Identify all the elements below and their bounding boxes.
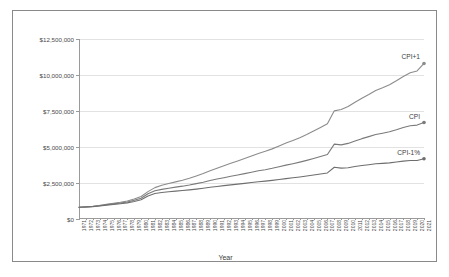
x-axis-tick-mark: [410, 218, 411, 220]
x-axis-tick-mark: [293, 218, 294, 220]
x-axis-tick-label: 2006: [323, 220, 329, 231]
x-axis-tick-mark: [141, 218, 142, 220]
x-axis-tick-mark: [362, 218, 363, 220]
x-axis-tick-label: 2007: [329, 220, 335, 231]
x-axis-tick-label: 1981: [150, 220, 156, 231]
x-axis-tick-label: 2016: [392, 220, 398, 231]
x-axis-tick-label: 1996: [254, 220, 260, 231]
x-axis-tick-label: 1972: [88, 220, 94, 231]
x-axis-tick-label: 2011: [357, 220, 363, 231]
x-axis-tick-mark: [189, 218, 190, 220]
y-axis-tick-label: $5,000,000: [43, 144, 74, 151]
x-axis-tick-mark: [390, 218, 391, 220]
x-axis-tick-mark: [148, 218, 149, 220]
x-axis-tick-label: 1997: [260, 220, 266, 231]
x-axis-tick-mark: [120, 218, 121, 220]
x-axis-tick-mark: [348, 218, 349, 220]
x-axis-tick-label: 2014: [378, 220, 384, 231]
x-axis-tick-mark: [134, 218, 135, 220]
chart-frame: $0$2,500,000$5,000,000$7,500,000$10,000,…: [12, 10, 437, 262]
x-axis-tick-label: 1998: [267, 220, 273, 231]
x-axis-tick-label: 2019: [412, 220, 418, 231]
x-axis-tick-label: 2003: [302, 220, 308, 231]
x-axis-tick-label: 2021: [426, 220, 432, 231]
x-axis-tick-mark: [210, 218, 211, 220]
series-lines: [79, 39, 438, 223]
x-axis-tick-mark: [369, 218, 370, 220]
x-axis-tick-label: 1985: [178, 220, 184, 231]
x-axis-tick-mark: [231, 218, 232, 220]
x-axis-tick-mark: [245, 218, 246, 220]
x-axis-tick-mark: [403, 218, 404, 220]
x-axis-tick-label: 2020: [419, 220, 425, 231]
x-axis-tick-mark: [424, 218, 425, 220]
x-axis-tick-mark: [327, 218, 328, 220]
x-axis-tick-label: 2015: [385, 220, 391, 231]
x-axis-tick-label: 2009: [343, 220, 349, 231]
x-axis-tick-mark: [107, 218, 108, 220]
y-axis-tick-label: $2,500,000: [43, 180, 74, 187]
x-axis-tick-mark: [334, 218, 335, 220]
x-axis-tick-mark: [300, 218, 301, 220]
x-axis-tick-label: 1990: [212, 220, 218, 231]
x-axis-tick-mark: [183, 218, 184, 220]
x-axis-tick-mark: [169, 218, 170, 220]
x-axis-tick-mark: [383, 218, 384, 220]
x-axis-tick-label: 1983: [164, 220, 170, 231]
x-axis-tick-label: 1992: [226, 220, 232, 231]
x-axis-tick-label: 1987: [191, 220, 197, 231]
x-axis-tick-label: 1982: [157, 220, 163, 231]
x-axis-tick-label: 1984: [171, 220, 177, 231]
x-axis-tick-label: 2000: [281, 220, 287, 231]
x-axis-tick-label: 2017: [398, 220, 404, 231]
x-axis-tick-mark: [279, 218, 280, 220]
x-axis-tick-mark: [100, 218, 101, 220]
x-axis-tick-label: 2008: [336, 220, 342, 231]
x-axis-tick-mark: [155, 218, 156, 220]
x-axis-tick-label: 1978: [129, 220, 135, 231]
x-axis-tick-mark: [355, 218, 356, 220]
x-axis-tick-mark: [265, 218, 266, 220]
x-axis-tick-mark: [162, 218, 163, 220]
x-axis-tick-mark: [196, 218, 197, 220]
x-axis-tick-mark: [79, 218, 80, 220]
plot-area: $0$2,500,000$5,000,000$7,500,000$10,000,…: [79, 39, 424, 219]
x-axis-tick-mark: [238, 218, 239, 220]
x-axis-tick-label: 1995: [247, 220, 253, 231]
series-end-marker: [422, 157, 426, 161]
x-axis-tick-mark: [341, 218, 342, 220]
x-axis-tick-mark: [321, 218, 322, 220]
y-axis-tick-label: $12,500,000: [40, 36, 74, 43]
series-label-cpi-1: CPI-1%: [397, 148, 420, 155]
x-axis-tick-mark: [86, 218, 87, 220]
x-axis-tick-label: 1993: [233, 220, 239, 231]
x-axis-tick-label: 1980: [143, 220, 149, 231]
x-axis-tick-mark: [127, 218, 128, 220]
x-axis-tick-labels: 1971197219731974197519761977197819791980…: [79, 220, 424, 254]
x-axis-tick-label: 2005: [316, 220, 322, 231]
x-axis-tick-mark: [307, 218, 308, 220]
series-end-marker: [422, 121, 426, 125]
x-axis-tick-label: 2012: [364, 220, 370, 231]
x-axis-tick-mark: [396, 218, 397, 220]
y-axis-tick-label: $10,000,000: [40, 72, 74, 79]
x-axis-tick-label: 1986: [185, 220, 191, 231]
x-axis-tick-label: 2010: [350, 220, 356, 231]
y-axis-tick-label: $7,500,000: [43, 108, 74, 115]
x-axis-tick-mark: [272, 218, 273, 220]
x-axis-tick-mark: [252, 218, 253, 220]
x-axis-tick-label: 1979: [136, 220, 142, 231]
x-axis-tick-label: 2001: [288, 220, 294, 231]
x-axis-tick-label: 1999: [274, 220, 280, 231]
x-axis-tick-label: 1988: [198, 220, 204, 231]
x-axis-tick-mark: [314, 218, 315, 220]
x-axis-tick-label: 2013: [371, 220, 377, 231]
x-axis-tick-label: 2002: [295, 220, 301, 231]
x-axis-tick-label: 1976: [116, 220, 122, 231]
x-axis-tick-label: 2018: [405, 220, 411, 231]
x-axis-title: Year: [13, 254, 438, 261]
x-axis-tick-label: 1994: [240, 220, 246, 231]
series-end-marker: [422, 62, 426, 66]
x-axis-tick-mark: [376, 218, 377, 220]
series-label-cpi-1: CPI+1: [401, 53, 420, 60]
